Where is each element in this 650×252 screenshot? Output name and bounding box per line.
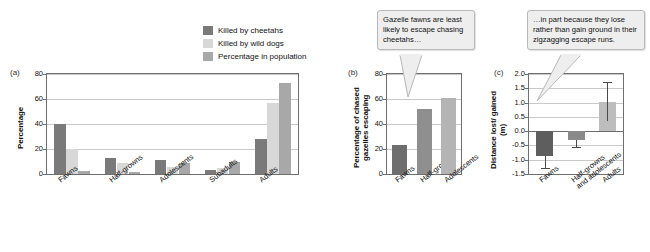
bar — [54, 124, 65, 174]
panel-a-plot-area: 020406080FawnsHalf-grownsAdolescentsSuba… — [46, 73, 299, 175]
y-tick-label: 2.0 — [501, 70, 525, 78]
y-tick-label: 20 — [363, 145, 383, 153]
y-tick — [525, 103, 528, 104]
y-tick-label: 40 — [23, 120, 43, 128]
y-tick-label: 1.0 — [501, 99, 525, 107]
error-bar-cap — [603, 82, 612, 83]
legend-item: Killed by cheetahs — [203, 25, 307, 36]
y-tick — [43, 149, 46, 150]
y-tick — [43, 74, 46, 75]
y-tick-label: -1.0 — [501, 156, 525, 164]
callout-panel-c-text: …in part because they lose rather than g… — [533, 15, 637, 44]
bar — [536, 131, 553, 156]
legend-swatch-killed-by-wild-dogs — [203, 39, 213, 48]
gridline — [47, 124, 298, 125]
bar — [129, 172, 140, 175]
legend-item: Killed by wild dogs — [203, 38, 307, 49]
legend-label: Percentage in population — [218, 52, 307, 61]
y-tick-label: 0 — [23, 170, 43, 178]
y-tick-label: 0.0 — [501, 127, 525, 135]
y-tick-label: 40 — [363, 120, 383, 128]
error-bar — [576, 140, 577, 148]
y-tick-label: 80 — [363, 70, 383, 78]
y-tick — [383, 174, 386, 175]
y-tick — [43, 99, 46, 100]
bar — [78, 171, 89, 174]
y-tick-label: 0 — [363, 170, 383, 178]
error-bar — [607, 82, 608, 121]
bar — [568, 131, 585, 140]
error-bar-cap — [572, 147, 581, 148]
y-tick — [525, 74, 528, 75]
y-tick — [383, 124, 386, 125]
y-tick-label: -0.5 — [501, 141, 525, 149]
panel-a-letter: (a) — [10, 68, 20, 77]
callout-panel-c-tail — [533, 55, 583, 101]
legend: Killed by cheetahs Killed by wild dogs P… — [203, 25, 307, 64]
bar — [417, 109, 432, 174]
y-tick — [525, 88, 528, 89]
panel-b-letter: (b) — [348, 68, 358, 77]
callout-panel-b-tail — [396, 55, 436, 97]
y-tick — [525, 131, 528, 132]
y-tick-label: 80 — [23, 70, 43, 78]
error-bar — [545, 156, 546, 168]
y-tick-label: 20 — [23, 145, 43, 153]
legend-label: Killed by wild dogs — [218, 39, 284, 48]
y-tick — [383, 149, 386, 150]
legend-swatch-killed-by-cheetahs — [203, 26, 213, 35]
y-tick — [525, 117, 528, 118]
y-tick-label: 60 — [363, 95, 383, 103]
bar — [441, 98, 456, 174]
gridline — [47, 74, 298, 75]
cheetah-predation-figure: Killed by cheetahs Killed by wild dogs P… — [0, 0, 650, 252]
y-tick — [525, 160, 528, 161]
bar — [255, 139, 266, 174]
callout-panel-c: …in part because they lose rather than g… — [527, 10, 645, 50]
callout-panel-b: Gazelle fawns are least likely to escape… — [377, 10, 475, 50]
legend-item: Percentage in population — [203, 51, 307, 62]
bar — [279, 83, 290, 174]
y-tick — [43, 124, 46, 125]
legend-label: Killed by cheetahs — [218, 26, 283, 35]
legend-swatch-percentage-in-population — [203, 52, 213, 61]
y-tick — [525, 174, 528, 175]
y-tick — [43, 174, 46, 175]
y-tick — [383, 74, 386, 75]
bar — [267, 103, 278, 174]
y-tick-label: -1.5 — [501, 170, 525, 178]
y-tick — [383, 99, 386, 100]
y-tick — [525, 145, 528, 146]
y-tick-label: 1.5 — [501, 84, 525, 92]
y-tick-label: 60 — [23, 95, 43, 103]
y-tick-label: 0.5 — [501, 113, 525, 121]
gridline — [47, 99, 298, 100]
callout-panel-b-text: Gazelle fawns are least likely to escape… — [383, 15, 463, 44]
